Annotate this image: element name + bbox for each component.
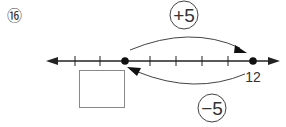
forward-arrowhead-icon <box>234 45 247 53</box>
start-point <box>121 57 129 65</box>
minus-five-label: −5 <box>201 98 223 119</box>
end-point <box>249 57 257 65</box>
backward-jump-arc <box>138 72 245 84</box>
left-arrow-icon <box>46 57 58 65</box>
forward-jump-arc <box>130 37 240 50</box>
right-arrow-icon <box>268 57 280 65</box>
answer-box[interactable] <box>80 71 125 108</box>
plus-five-label: +5 <box>173 5 195 26</box>
number-line-diagram: +5 −5 12 <box>0 0 286 127</box>
backward-arrowhead-icon <box>127 67 141 76</box>
end-point-label: 12 <box>245 69 261 85</box>
